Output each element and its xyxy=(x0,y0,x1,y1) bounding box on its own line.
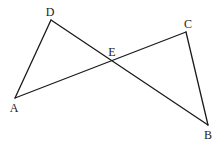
label-B: B xyxy=(204,128,212,142)
segment-DB xyxy=(51,20,208,125)
label-A: A xyxy=(10,101,19,115)
label-D: D xyxy=(46,5,55,19)
label-E: E xyxy=(108,45,115,59)
geometry-diagram: A D C B E xyxy=(0,0,218,153)
segment-CB xyxy=(186,32,208,125)
label-C: C xyxy=(184,17,192,31)
